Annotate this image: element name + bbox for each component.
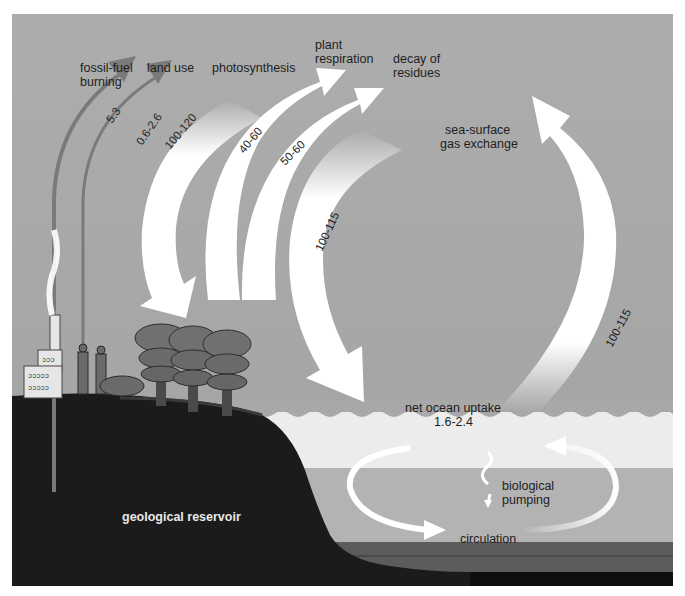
svg-text:ɔɔɔɔɔ: ɔɔɔɔɔ	[28, 384, 49, 392]
label-pumping: pumping	[502, 493, 550, 507]
label-sea-surface: sea-surface	[445, 123, 510, 137]
label-circulation: circulation	[460, 532, 516, 546]
label-biological: biological	[502, 479, 554, 493]
label-respiration: respiration	[315, 52, 373, 66]
label-gas-exchange: gas exchange	[440, 137, 518, 151]
label-fossil-fuel: fossil-fuel	[80, 61, 133, 75]
label-net-ocean-uptake-value: 1.6-2.4	[434, 415, 473, 429]
label-photosynthesis: photosynthesis	[212, 61, 295, 75]
label-plant: plant	[315, 38, 343, 52]
carbon-cycle-diagram: ɔɔɔ ɔɔɔɔɔ ɔɔɔɔɔ	[0, 0, 685, 596]
label-geological-reservoir: geological reservoir	[122, 510, 241, 524]
svg-text:ɔɔɔɔɔ: ɔɔɔɔɔ	[28, 372, 49, 380]
label-residues: residues	[393, 66, 440, 80]
svg-text:ɔɔɔ: ɔɔɔ	[42, 356, 55, 364]
label-decay-of: decay of	[393, 52, 441, 66]
label-burning: burning	[80, 75, 122, 89]
label-net-ocean-uptake: net ocean uptake	[405, 401, 501, 415]
label-land-use: land use	[147, 61, 194, 75]
